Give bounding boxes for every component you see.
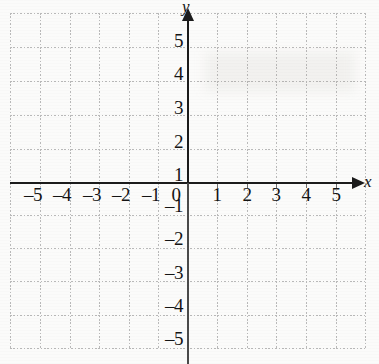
y-tick-label-5: 5: [145, 31, 183, 50]
y-tick-label--2: –2: [141, 229, 183, 248]
gridline-vertical: [10, 13, 11, 348]
y-tick-label--5: –5: [141, 329, 183, 348]
gridline-vertical: [336, 13, 337, 348]
y-tick-label--4: –4: [141, 296, 183, 315]
gridline-vertical: [40, 13, 41, 348]
y-tick-label-1: 1: [145, 165, 183, 184]
gridline-vertical: [129, 13, 130, 348]
x-tick-label--2: –2: [106, 185, 136, 204]
y-axis-line-upper: [187, 20, 189, 183]
x-tick-label-5: 5: [322, 185, 350, 204]
gridline-vertical: [247, 13, 248, 348]
gridline-vertical: [70, 13, 71, 348]
gridline-vertical: [306, 13, 307, 348]
x-tick-label-1: 1: [203, 185, 231, 204]
x-tick-label-2: 2: [233, 185, 261, 204]
x-tick-label--3: –3: [77, 185, 107, 204]
gridline-vertical: [217, 13, 218, 348]
coordinate-plane-figure: –5 –4 –3 –2 –1 0 1 2 3 4 5 5 4 3 2 1 –1 …: [0, 0, 379, 364]
gridline-vertical: [99, 13, 100, 348]
x-tick-label--4: –4: [47, 185, 77, 204]
y-tick-label-2: 2: [145, 132, 183, 151]
scan-smudge: [205, 52, 355, 92]
gridline-vertical: [276, 13, 277, 348]
y-axis-line-lower: [187, 183, 189, 364]
x-tick-label-3: 3: [262, 185, 290, 204]
x-tick-label--5: –5: [18, 185, 48, 204]
y-tick-label-3: 3: [145, 98, 183, 117]
y-axis-label: y: [182, 0, 190, 17]
y-tick-label--1: –1: [141, 196, 183, 215]
x-axis-label: x: [364, 172, 372, 192]
y-tick-label--3: –3: [141, 263, 183, 282]
x-tick-label-4: 4: [292, 185, 320, 204]
y-tick-label-4: 4: [145, 64, 183, 83]
